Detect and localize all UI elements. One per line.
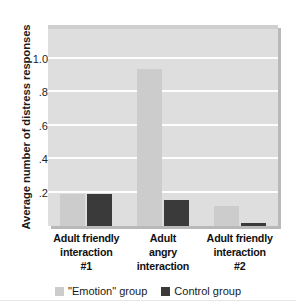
bar — [137, 69, 162, 226]
legend-item[interactable]: "Emotion" group — [55, 285, 147, 297]
x-axis-label: Adult friendlyinteraction#2 — [201, 231, 278, 274]
legend-swatch-icon — [161, 287, 170, 296]
x-axis-label-line: Adult — [125, 231, 202, 245]
y-tick-label: .8 — [24, 87, 48, 98]
bar — [164, 200, 189, 226]
bar — [214, 206, 239, 226]
legend-divider — [0, 300, 296, 301]
x-axis-label-line: #1 — [48, 259, 125, 273]
x-axis-category-labels: Adult friendlyinteraction#1Adultangryint… — [48, 231, 278, 277]
x-axis-label-line: Adult friendly — [48, 231, 125, 245]
y-tick-label: .6 — [24, 121, 48, 132]
bars-layer — [48, 25, 278, 226]
x-axis-label: Adultangryinteraction — [125, 231, 202, 274]
legend-label: "Emotion" group — [68, 285, 147, 297]
bar — [241, 223, 266, 226]
chart-legend: "Emotion" groupControl group — [0, 283, 296, 299]
x-axis-label-line: interaction — [201, 245, 278, 259]
x-axis-label-line: interaction — [125, 259, 202, 273]
bar — [87, 194, 112, 226]
x-axis-label-line: interaction — [48, 245, 125, 259]
bar-chart-figure: Average number of distress responses 1.0… — [0, 0, 296, 308]
x-axis-label-line: Adult friendly — [201, 231, 278, 245]
plot-area — [48, 25, 278, 226]
legend-item[interactable]: Control group — [161, 285, 241, 297]
legend-swatch-icon — [55, 287, 64, 296]
legend-label: Control group — [174, 285, 241, 297]
y-axis-tick-labels: 1.0 .8 .6 .4 .2 — [24, 25, 48, 226]
x-axis-label-line: angry — [125, 245, 202, 259]
y-tick-label: 1.0 — [24, 54, 48, 65]
x-axis-label: Adult friendlyinteraction#1 — [48, 231, 125, 274]
x-axis-label-line: #2 — [201, 259, 278, 273]
y-tick-label: .4 — [24, 154, 48, 165]
bar — [60, 194, 85, 226]
y-tick-label: .2 — [24, 188, 48, 199]
